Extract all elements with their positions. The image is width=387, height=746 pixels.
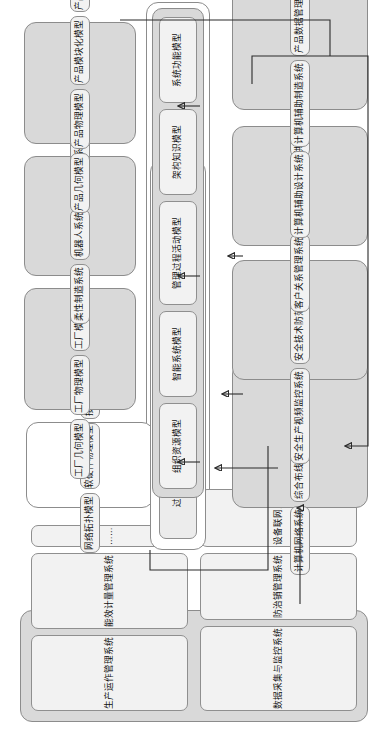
- group-product-model-item-3[interactable]: 产品知识模型: [70, 0, 90, 13]
- group-equipment-systems-item-1[interactable]: 机器人系统: [70, 209, 90, 260]
- group-product-systems-item-0[interactable]: 计算机辅助设计系统: [290, 151, 310, 238]
- pillar-architecture-models: 组织资源模型智能系统模型管理过程活动模型架构知识模型系统功能模型: [152, 8, 204, 498]
- group-product-systems: 计算机辅助设计系统计算机辅助制造系统产品数据管理系统产品全生命周期管理系统……: [232, 0, 368, 110]
- group-it-infrastructure-item-0[interactable]: 计算机网络系统: [290, 506, 310, 575]
- node-architecture-model-2[interactable]: 管理过程活动模型: [159, 201, 197, 305]
- group-product-systems-item-2[interactable]: 产品数据管理系统: [290, 0, 310, 56]
- group-network-model: 网络拓扑模型软硬件物理模型接口模型: [26, 422, 154, 508]
- node-architecture-model-3[interactable]: 架构知识模型: [159, 109, 197, 195]
- node-production-row-b-0[interactable]: 数据采集与监控系统: [200, 626, 357, 711]
- group-network-model-item-0[interactable]: 网络拓扑模型: [80, 493, 100, 553]
- node-production-row-a-1[interactable]: 能效计量管理系统: [31, 553, 188, 629]
- node-architecture-model-0[interactable]: 组织资源模型: [159, 403, 197, 489]
- group-equipment-systems-item-0[interactable]: 柔性制造系统: [70, 264, 90, 324]
- group-business-systems-item-0[interactable]: 客户关系管理系统: [290, 234, 310, 312]
- subgroup-production-row-b: 数据采集与监控系统防治销管理系统设备联网系统: [200, 621, 357, 711]
- node-architecture-model-4[interactable]: 系统功能模型: [159, 17, 197, 103]
- group-product-model: 产品几何模型产品物理模型产品模块化模型产品知识模型: [24, 22, 136, 144]
- group-production-management: 生产运作管理系统能效计量管理系统……数据采集与监控系统防治销管理系统设备联网系统: [20, 610, 368, 722]
- group-product-model-item-1[interactable]: 产品物理模型: [70, 90, 90, 150]
- node-production-row-a-0[interactable]: 生产运作管理系统: [31, 635, 188, 711]
- node-architecture-model-1[interactable]: 智能系统模型: [159, 311, 197, 397]
- group-product-model-item-0[interactable]: 产品几何模型: [70, 154, 90, 214]
- subgroup-production-row-a: 生产运作管理系统能效计量管理系统……: [31, 621, 188, 711]
- group-product-systems-item-1[interactable]: 计算机辅助制造系统: [290, 60, 310, 147]
- architecture-diagram-canvas: 生产运作管理系统能效计量管理系统……数据采集与监控系统防治销管理系统设备联网系统…: [0, 0, 387, 746]
- group-factory-model-item-0[interactable]: 工厂几何模型: [70, 420, 90, 480]
- group-product-model-item-2[interactable]: 产品模块化模型: [70, 17, 90, 86]
- group-factory-model-item-1[interactable]: 工厂物理模型: [70, 356, 90, 416]
- node-production-row-b-1[interactable]: 防治销管理系统: [200, 553, 357, 620]
- group-safety-systems-item-0[interactable]: 安全生产视频监控系统: [290, 368, 310, 464]
